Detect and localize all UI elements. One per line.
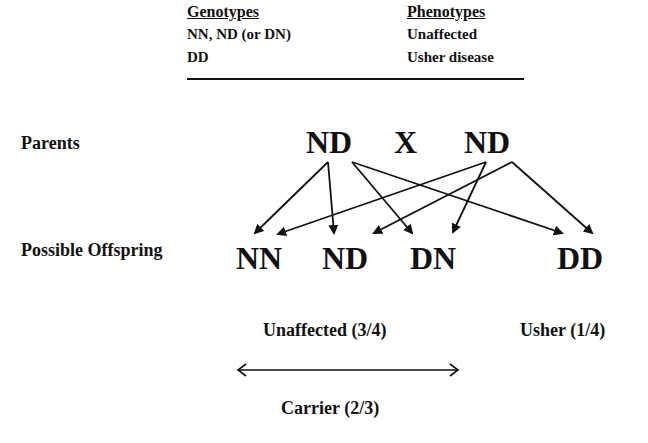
- carrier-ratio: Carrier (2/3): [281, 398, 379, 419]
- inheritance-arrows: [0, 0, 648, 443]
- offspring-nn: NN: [236, 242, 282, 274]
- offspring-dn: DN: [410, 242, 456, 274]
- offspring-nd: ND: [322, 242, 368, 274]
- offspring-dd: DD: [557, 242, 603, 274]
- unaffected-ratio: Unaffected (3/4): [263, 320, 386, 341]
- usher-ratio: Usher (1/4): [520, 320, 605, 341]
